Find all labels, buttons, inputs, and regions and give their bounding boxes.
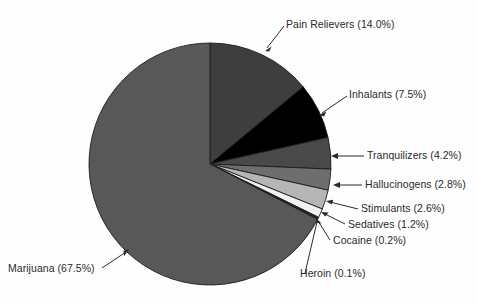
pie-slices-group [89,43,331,285]
slice-label-sedatives: Sedatives (1.2%) [348,218,429,230]
leader-line-pain-relievers [267,26,284,48]
slice-label-cocaine: Cocaine (0.2%) [333,234,406,246]
slice-label-marijuana: Marijuana (67.5%) [8,262,95,274]
leader-arrow-tranquilizers [331,153,338,159]
slice-label-heroin: Heroin (0.1%) [300,267,365,279]
slice-label-pain-relievers: Pain Relievers (14.0%) [286,18,394,30]
slice-label-inhalants: Inhalants (7.5%) [349,88,426,100]
leader-line-sedatives [325,214,345,224]
leader-line-inhalants [322,96,347,113]
leader-arrow-sedatives [321,212,329,217]
leader-line-marijuana [102,252,126,268]
leader-arrow-hallucinogens [333,182,340,188]
leader-arrow-pain-relievers [265,47,272,52]
pie-chart-figure: Pain Relievers (14.0%) Inhalants (7.5%) … [0,0,477,306]
leader-arrow-stimulants [326,200,333,205]
slice-label-tranquilizers: Tranquilizers (4.2%) [367,149,462,161]
slice-label-stimulants: Stimulants (2.6%) [361,202,445,214]
leader-line-stimulants [330,202,358,209]
slice-label-hallucinogens: Hallucinogens (2.8%) [365,178,466,190]
leader-line-cocaine [318,221,330,240]
